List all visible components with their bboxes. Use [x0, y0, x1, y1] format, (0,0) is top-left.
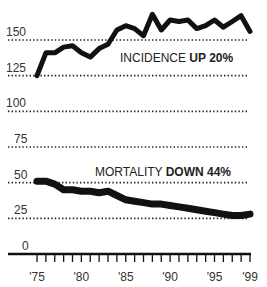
- data-lines: [37, 14, 250, 215]
- y-tick-label: 125: [6, 61, 26, 75]
- y-tick-label: 25: [14, 203, 28, 217]
- incidence-annotation: INCIDENCE UP 20%: [120, 51, 233, 65]
- line-chart: 0255075100125150 '75'80'85'90'95'99 INCI…: [0, 0, 267, 287]
- x-tick-label: '99: [242, 270, 258, 284]
- x-tick-label: '85: [118, 270, 134, 284]
- x-tick-label: '90: [162, 270, 178, 284]
- incidence-line: [37, 14, 250, 75]
- y-tick-label: 50: [14, 168, 28, 182]
- y-axis-labels: 0255075100125150: [6, 25, 29, 253]
- x-tick-label: '80: [74, 270, 90, 284]
- y-tick-label: 0: [22, 239, 29, 253]
- gridlines: [8, 40, 247, 218]
- y-tick-label: 75: [14, 132, 28, 146]
- x-tick-label: '75: [29, 270, 45, 284]
- y-tick-label: 100: [6, 96, 26, 110]
- y-tick-label: 150: [6, 25, 26, 39]
- mortality-annotation: MORTALITY DOWN 44%: [95, 165, 231, 179]
- x-axis: '75'80'85'90'95'99: [8, 254, 258, 284]
- mortality-line: [37, 181, 250, 215]
- x-tick-label: '95: [207, 270, 223, 284]
